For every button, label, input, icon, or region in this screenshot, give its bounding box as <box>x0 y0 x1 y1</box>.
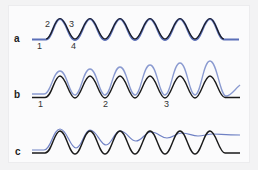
annotation-b-1: 1 <box>38 99 43 109</box>
panel-label-c: c <box>15 146 21 157</box>
panel-b: b 1 2 3 <box>14 61 240 109</box>
waveform-figure: a 1 2 3 4 b 1 2 3 c <box>0 0 258 170</box>
panel-a: a 1 2 3 4 <box>14 19 239 52</box>
annotation-b-3: 3 <box>164 99 169 109</box>
annotation-a-4: 4 <box>71 41 76 51</box>
trace-a-blue <box>32 19 239 40</box>
annotation-a-2: 2 <box>45 19 50 29</box>
annotation-a-1: 1 <box>37 41 42 51</box>
panel-label-b: b <box>14 89 20 100</box>
panel-c: c <box>15 129 240 157</box>
annotation-a-3: 3 <box>69 19 74 29</box>
panel-label-a: a <box>14 33 20 44</box>
annotation-b-2: 2 <box>103 99 108 109</box>
